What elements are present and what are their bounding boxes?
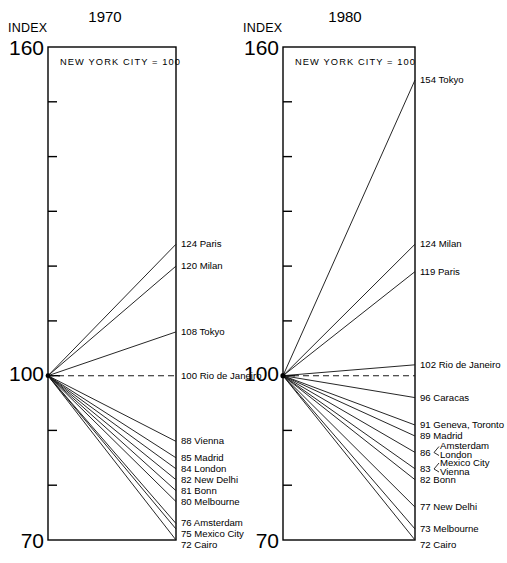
baseline-note-1980: NEW YORK CITY = 100: [295, 57, 416, 67]
bracket-83-upper: [434, 463, 439, 469]
ray-1970-paris: [48, 244, 176, 376]
panel-1970: INDEX 1970 160 70 100 NEW YORK CITY = 10…: [8, 8, 262, 552]
label-1970-mexicocity: 75 Mexico City: [181, 528, 244, 539]
axis-origin-right: 100: [244, 362, 279, 385]
label-1980-newdelhi: 77 New Delhi: [420, 501, 477, 512]
axis-origin-left: 100: [9, 362, 44, 385]
label-1980-caracas: 96 Caracas: [420, 392, 469, 403]
ray-1980-caracas: [283, 376, 415, 398]
axis-min-left: 70: [21, 529, 44, 552]
ray-1970-melbourne: [48, 376, 176, 502]
bracket-83-lower: [434, 469, 439, 472]
ray-1970-bonn: [48, 376, 176, 491]
label-1980-cairo: 72 Cairo: [420, 539, 456, 550]
label-1970-amsterdam: 76 Amsterdam: [181, 517, 243, 528]
panel-title-1970: 1970: [88, 8, 121, 25]
ray-1970-milan: [48, 266, 176, 376]
baseline-note-1970: NEW YORK CITY = 100: [60, 57, 181, 67]
axis-max-left: 160: [9, 36, 44, 59]
label-1970-melbourne: 80 Melbourne: [181, 496, 240, 507]
bracket-86-lower: [434, 453, 439, 456]
ray-1980-rio: [283, 365, 415, 376]
hub-1970: [46, 373, 51, 378]
plot-frame-1980: [283, 47, 415, 540]
label-1970-vienna: 88 Vienna: [181, 435, 225, 446]
hub-1980: [280, 373, 285, 378]
label-1980-tokyo: 154 Tokyo: [420, 74, 464, 85]
axis-max-right: 160: [244, 36, 279, 59]
label-1980-milan: 124 Milan: [420, 238, 462, 249]
panel-title-1980: 1980: [328, 8, 361, 25]
ray-1980-tokyo: [283, 80, 415, 376]
label-1970-tokyo: 108 Tokyo: [181, 326, 225, 337]
label-1970-paris: 124 Paris: [181, 238, 222, 249]
cost-of-living-figure: INDEX 1970 160 70 100 NEW YORK CITY = 10…: [0, 0, 507, 563]
ray-1970-london: [48, 376, 176, 469]
label-1980-geneva-toronto: 91 Geneva, Toronto: [420, 419, 504, 430]
ray-1980-paris: [283, 272, 415, 376]
ray-1970-madrid: [48, 376, 176, 458]
label-1970-london: 84 London: [181, 463, 226, 474]
axis-min-right: 70: [256, 529, 279, 552]
ray-1980-milan: [283, 244, 415, 376]
ray-1970-amsterdam: [48, 376, 176, 524]
ray-1970-tokyo: [48, 332, 176, 376]
ray-1970-mexicocity: [48, 376, 176, 529]
ray-1980-mexicocity-vienna: [283, 376, 415, 469]
label-1980-value-83: 83: [420, 463, 431, 474]
label-1970-newdelhi: 82 New Delhi: [181, 474, 238, 485]
figure-root: INDEX 1970 160 70 100 NEW YORK CITY = 10…: [0, 0, 507, 563]
label-1970-bonn: 81 Bonn: [181, 485, 217, 496]
bracket-86-upper: [434, 447, 439, 453]
label-1980-melbourne: 73 Melbourne: [420, 523, 479, 534]
label-1980-value-86: 86: [420, 447, 431, 458]
label-1980-bonn: 82 Bonn: [420, 474, 456, 485]
ray-1980-melbourne: [283, 376, 415, 529]
label-1970-cairo: 72 Cairo: [181, 539, 217, 550]
panel-1980: INDEX 1980 160 70 100 NEW YORK CITY = 10…: [243, 8, 504, 552]
ray-1980-bonn: [283, 376, 415, 480]
ray-1970-cairo: [48, 376, 176, 540]
axis-title-index-right: INDEX: [243, 21, 283, 35]
ray-1980-madrid: [283, 376, 415, 436]
axis-title-index-left: INDEX: [8, 21, 48, 35]
label-1980-rio: 102 Rio de Janeiro: [420, 359, 501, 370]
plot-frame-1970: [48, 47, 176, 540]
label-1980-paris: 119 Paris: [420, 266, 460, 277]
ray-1970-newdelhi: [48, 376, 176, 480]
label-1970-madrid: 85 Madrid: [181, 452, 224, 463]
label-1970-milan: 120 Milan: [181, 260, 223, 271]
ray-1970-vienna: [48, 376, 176, 442]
